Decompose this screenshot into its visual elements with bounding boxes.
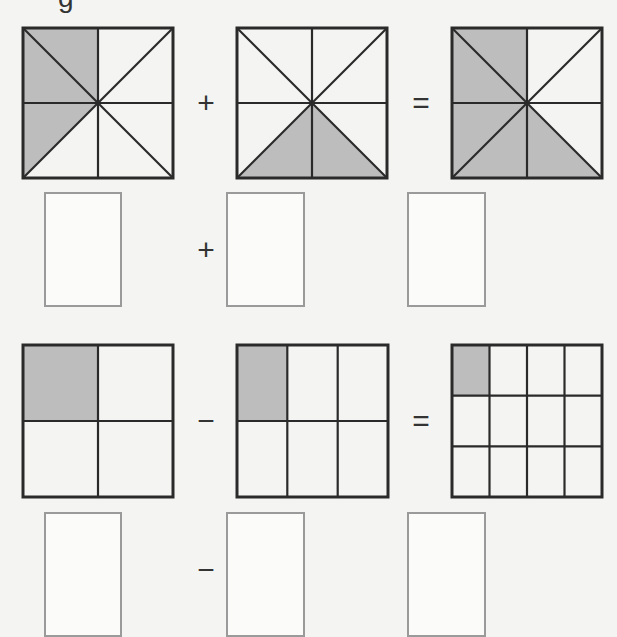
answer-box-2c[interactable]: [407, 512, 486, 637]
answer-input-1a[interactable]: [46, 194, 124, 307]
answer-box-2a[interactable]: [44, 512, 122, 637]
answer-box-1c[interactable]: [407, 192, 486, 307]
figure-grid-2x3: [237, 345, 388, 497]
answer-input-2b[interactable]: [228, 514, 307, 637]
answer-box-2b[interactable]: [226, 512, 305, 637]
plus-operator-answer: +: [191, 235, 221, 265]
minus-operator: −: [191, 406, 221, 436]
heading-fragment: g: [58, 0, 74, 12]
figure-grid-2x2: [23, 345, 173, 497]
answer-box-1a[interactable]: [44, 192, 122, 307]
figure-square-eighths-1: [23, 28, 173, 178]
minus-operator-answer: −: [191, 555, 221, 585]
answer-input-1b[interactable]: [228, 194, 307, 307]
equals-sign: =: [406, 88, 436, 118]
figure-grid-3x4: [452, 345, 602, 497]
figure-square-eighths-sum: [452, 28, 602, 178]
figure-square-eighths-2: [237, 28, 387, 178]
plus-operator: +: [191, 88, 221, 118]
answer-input-2a[interactable]: [46, 514, 124, 637]
answer-input-1c[interactable]: [409, 194, 488, 307]
answer-input-2c[interactable]: [409, 514, 488, 637]
equals-sign-2: =: [406, 406, 436, 436]
answer-box-1b[interactable]: [226, 192, 305, 307]
